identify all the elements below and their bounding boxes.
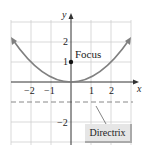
- y-tick-neg2: −2: [57, 118, 68, 128]
- x-tick-1: 1: [89, 86, 94, 96]
- x-tick-neg2: −2: [24, 86, 35, 96]
- y-tick-1: 1: [63, 57, 68, 67]
- focus-point: [69, 60, 73, 64]
- y-axis-label: y: [62, 10, 66, 20]
- x-axis-label: x: [137, 84, 141, 94]
- y-axis-arrow-icon: [69, 13, 74, 19]
- directrix-label-box: Directrix: [85, 124, 132, 143]
- directrix-leader: [96, 106, 106, 124]
- x-tick-neg1: −1: [44, 86, 55, 96]
- directrix-label: Directrix: [89, 127, 125, 138]
- x-tick-2: 2: [109, 86, 114, 96]
- focus-label: Focus: [75, 49, 101, 60]
- y-tick-2: 2: [63, 37, 68, 47]
